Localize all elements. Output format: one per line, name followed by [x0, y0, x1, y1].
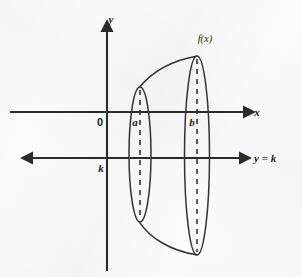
x-axis-label: x	[253, 106, 260, 118]
axes-group	[10, 19, 256, 271]
origin-label: 0	[97, 116, 103, 128]
disk-at-b-ellipse	[185, 56, 210, 255]
y-equals-k-left-arrowhead-icon	[20, 152, 33, 165]
solid-of-revolution-diagram: y x 0 k a b f(x) y = k	[0, 0, 302, 277]
disk-at-b	[185, 56, 210, 255]
axis-of-revolution-line-y-equals-k	[20, 152, 252, 165]
upper-limit-b-label: b	[189, 116, 195, 128]
lower-limit-a-label: a	[132, 116, 138, 128]
k-value-label: k	[98, 162, 104, 174]
axis-of-revolution-label: y = k	[252, 152, 277, 164]
y-axis	[101, 19, 114, 271]
figure-canvas: y x 0 k a b f(x) y = k	[0, 0, 302, 277]
top-boundary-curve	[139, 56, 196, 87]
disk-at-a	[129, 87, 151, 222]
y-equals-k-right-arrowhead-icon	[239, 152, 252, 165]
y-axis-label: y	[107, 13, 114, 25]
function-curve-label: f(x)	[198, 33, 213, 45]
